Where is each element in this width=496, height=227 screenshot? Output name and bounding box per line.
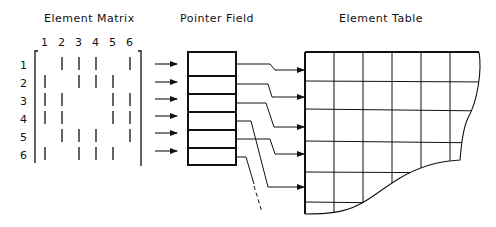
element-table (305, 52, 490, 220)
element-table-title: Element Table (339, 12, 423, 25)
table-row-line (305, 109, 490, 111)
row-label: 4 (20, 113, 27, 126)
pointer-field (188, 52, 236, 165)
row-label: 6 (20, 149, 27, 162)
pointer-field-title: Pointer Field (180, 12, 254, 25)
col-label: 1 (41, 36, 48, 49)
table-row-line (305, 172, 490, 173)
pointer-connector-5 (236, 139, 304, 154)
matrix-row-labels: 1 2 3 4 5 6 (20, 59, 27, 162)
row-label: 1 (20, 59, 27, 72)
pointer-connector-2 (236, 84, 304, 97)
row-label: 3 (20, 95, 27, 108)
row-label: 2 (20, 77, 27, 90)
col-label: 5 (109, 36, 116, 49)
col-label: 2 (58, 36, 65, 49)
col-label: 3 (75, 36, 82, 49)
pointer-connector-1 (236, 64, 304, 70)
row-arrows (155, 64, 177, 151)
row-label: 5 (20, 131, 27, 144)
matrix-left-bracket (35, 51, 38, 163)
matrix-right-bracket (138, 51, 141, 166)
col-label: 6 (126, 36, 133, 49)
pointer-connector-6-dashed (254, 186, 262, 212)
element-matrix-title: Element Matrix (44, 12, 135, 25)
diagram-canvas: Element Matrix Pointer Field Element Tab… (0, 0, 496, 227)
matrix-entries (45, 57, 130, 160)
pointer-connectors (236, 64, 304, 212)
pointer-connector-6 (236, 157, 254, 184)
table-row-line (305, 202, 490, 204)
pointer-connector-3 (236, 103, 304, 127)
matrix-column-labels: 1 2 3 4 5 6 (41, 36, 133, 49)
table-row-line (305, 81, 490, 82)
col-label: 4 (92, 36, 99, 49)
